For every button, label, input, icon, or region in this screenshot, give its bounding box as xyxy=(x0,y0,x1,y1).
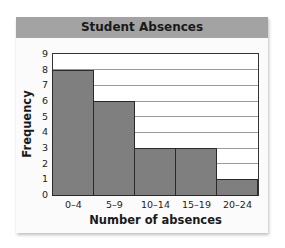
x-tick-label: 5–9 xyxy=(94,199,135,210)
y-tick-label: 2 xyxy=(34,159,48,169)
y-tick-label: 6 xyxy=(34,96,48,106)
y-tick-label: 5 xyxy=(34,112,48,122)
x-tick-label: 0–4 xyxy=(53,199,94,210)
x-tick-label: 10–14 xyxy=(135,199,176,210)
bar xyxy=(175,148,217,196)
y-tick-label: 0 xyxy=(34,190,48,200)
y-tick-label: 7 xyxy=(34,80,48,90)
x-axis-label: Number of absences xyxy=(52,213,259,227)
plot-area xyxy=(52,53,259,196)
y-tick-label: 1 xyxy=(34,174,48,184)
y-tick-label: 8 xyxy=(34,65,48,75)
y-tick-label: 4 xyxy=(34,127,48,137)
bar xyxy=(93,101,135,196)
bar xyxy=(134,148,176,196)
y-axis-label: Frequency xyxy=(20,79,34,169)
y-tick-label: 3 xyxy=(34,143,48,153)
x-tick-label: 15–19 xyxy=(176,199,217,210)
bar xyxy=(216,179,258,196)
chart-card: Student Absences Frequency 0123456789 0–… xyxy=(16,17,268,233)
bar xyxy=(52,70,94,196)
x-tick-label: 20–24 xyxy=(217,199,258,210)
y-tick-label: 9 xyxy=(34,49,48,59)
chart-title: Student Absences xyxy=(16,17,268,38)
